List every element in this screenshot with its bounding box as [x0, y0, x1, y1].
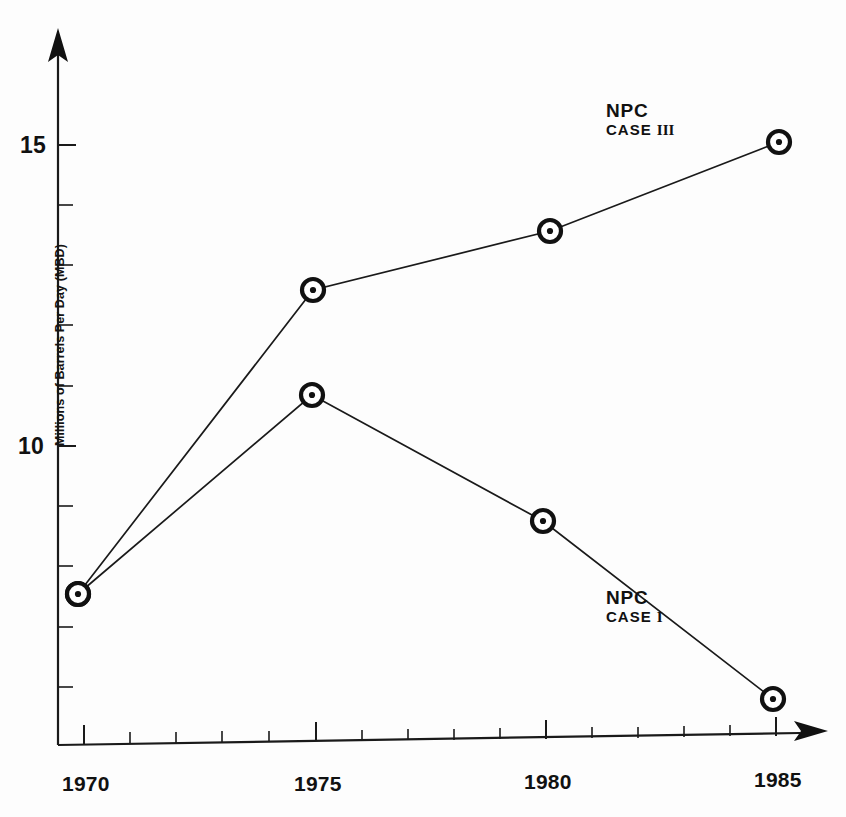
data-point-npc-case-i-1975 — [301, 384, 323, 406]
series-annotation-npc-case-iii: NPC CASE III — [606, 100, 674, 140]
annotation-upper-subtitle: CASE III — [606, 121, 674, 140]
x-tick-label-1985: 1985 — [754, 768, 802, 792]
series-line-npc-case-i — [78, 395, 773, 699]
annotation-lower-case-roman: I — [657, 609, 663, 625]
series-npc-case-i — [67, 384, 784, 710]
data-point-npc-case-iii-1985 — [768, 131, 790, 153]
series-line-npc-case-iii — [78, 142, 779, 594]
chart-plot-area — [0, 0, 846, 817]
data-point-npc-case-iii-1975 — [302, 279, 324, 301]
annotation-upper-case-prefix: CASE — [606, 121, 657, 138]
x-axis-line — [58, 733, 800, 745]
annotation-upper-title: NPC — [606, 100, 674, 121]
annotation-lower-title: NPC — [606, 587, 663, 608]
annotation-lower-case-prefix: CASE — [606, 608, 657, 625]
x-axis — [58, 721, 828, 745]
data-point-npc-case-i-1980 — [532, 510, 554, 532]
y-tick-label-10: 10 — [18, 433, 44, 460]
series-npc-case-iii — [67, 131, 790, 605]
chart-container: Millions of Barrels Per Day (MBD) 15 10 … — [0, 0, 846, 817]
x-tick-label-1970: 1970 — [62, 772, 110, 796]
series-annotation-npc-case-i: NPC CASE I — [606, 587, 663, 627]
y-tick-label-15: 15 — [20, 132, 46, 159]
x-tick-label-1980: 1980 — [524, 770, 572, 794]
annotation-upper-case-roman: III — [657, 122, 675, 138]
x-axis-arrow-icon — [794, 721, 828, 741]
y-axis-title: Millions of Barrels Per Day (MBD) — [53, 215, 67, 475]
data-point-npc-case-i-1970 — [67, 583, 89, 605]
x-tick-label-1975: 1975 — [294, 772, 342, 796]
annotation-lower-subtitle: CASE I — [606, 608, 663, 627]
data-point-npc-case-iii-1980 — [539, 220, 561, 242]
data-point-npc-case-i-1985 — [762, 688, 784, 710]
